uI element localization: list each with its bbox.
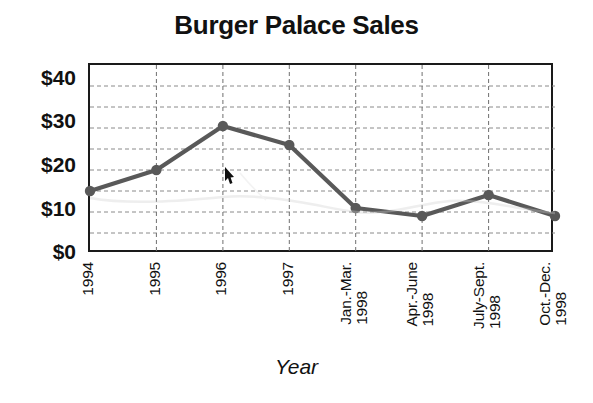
x-tick-label-1994: 1994 (80, 262, 96, 296)
x-tick-label-july-sept-1998: July-Sept. 1998 (471, 262, 504, 329)
x-tick-label-apr-june-1998: Apr.-June 1998 (404, 262, 437, 327)
x-tick-line1: 1995 (146, 262, 163, 296)
x-tick-line1: 1996 (212, 262, 229, 296)
chart-figure: Burger Palace Sales $40 $30 $20 $10 $0 (0, 0, 593, 403)
x-tick-line1: Jan.-Mar. (337, 262, 354, 325)
x-tick-line1: Apr.-June (403, 262, 420, 327)
x-axis-title: Year (0, 355, 593, 379)
x-tick-line1: July-Sept. (470, 262, 487, 329)
x-tick-line1: 1994 (79, 262, 96, 296)
x-tick-label-oct-dec-1998: Oct.-Dec. 1998 (537, 262, 570, 326)
x-tick-line2: 1998 (354, 262, 370, 325)
x-tick-line2: 1998 (487, 262, 503, 329)
x-tick-label-1996: 1996 (213, 262, 229, 296)
x-tick-label-1997: 1997 (280, 262, 296, 296)
x-tick-line1: Oct.-Dec. (536, 262, 553, 326)
x-tick-label-jan-mar-1998: Jan.-Mar. 1998 (338, 262, 371, 325)
x-tick-line1: 1997 (279, 262, 296, 296)
x-axis-tick-labels: 1994 1995 1996 1997 Jan.-Mar. 1998 Apr.-… (0, 0, 593, 403)
x-tick-label-1995: 1995 (147, 262, 163, 296)
x-tick-line2: 1998 (420, 262, 436, 327)
x-tick-line2: 1998 (553, 262, 569, 326)
